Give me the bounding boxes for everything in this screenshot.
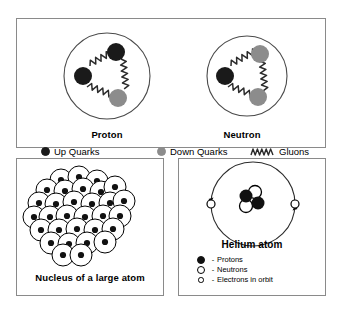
nucleon-core-dot xyxy=(38,227,44,233)
helium-electron xyxy=(207,200,215,208)
nucleon-core-dot xyxy=(117,213,123,219)
nucleon-core-dot xyxy=(64,213,70,219)
proton-marker-icon xyxy=(193,256,209,264)
nucleon-core-dot xyxy=(60,252,66,258)
nucleon-core-dot xyxy=(36,200,42,206)
helium-electron xyxy=(291,200,299,208)
panel-helium-atom: Helium atom - Protons - Neutrons xyxy=(178,158,326,296)
neutron-marker-icon xyxy=(193,266,209,274)
neutron-down-quark xyxy=(249,88,267,106)
helium-legend: - Protons - Neutrons - Electrons in orbi… xyxy=(193,255,323,285)
helium-legend-protons: - Protons xyxy=(193,255,323,265)
nucleon-core-dot xyxy=(78,252,84,258)
nucleon-core-dot xyxy=(89,201,95,207)
nucleon-core-dot xyxy=(74,226,80,232)
legend-up-quarks: Up Quarks xyxy=(41,146,99,157)
helium-legend-neutrons: - Neutrons xyxy=(193,265,323,275)
nucleon-core-dot xyxy=(110,226,116,232)
nucleus-caption: Nucleus of a large atom xyxy=(17,272,163,283)
neutron-caption: Neutron xyxy=(192,129,292,140)
gluon-icon xyxy=(250,147,274,157)
nucleon-core-dot xyxy=(71,199,77,205)
legend-down-quarks-label: Down Quarks xyxy=(170,146,228,157)
panel-nucleus: Nucleus of a large atom xyxy=(16,158,164,296)
legend-dash: - xyxy=(209,275,217,285)
helium-proton xyxy=(252,197,265,210)
nucleon-core-dot xyxy=(80,186,86,192)
helium-legend-neutrons-label: Neutrons xyxy=(217,265,247,275)
diagram-stage: Proton Neutron Up Quarks Down Quarks Glu… xyxy=(0,0,340,311)
legend-gluons-label: Gluons xyxy=(279,146,309,157)
neutron-group xyxy=(207,36,287,116)
proton-up-quark xyxy=(74,67,92,85)
helium-legend-electrons-label: Electrons in orbit xyxy=(217,275,273,285)
nucleon-core-dot xyxy=(47,214,53,220)
neutron-down-quark xyxy=(251,45,269,63)
legend-down-quarks: Down Quarks xyxy=(157,146,228,157)
nucleon-core-dot xyxy=(56,227,62,233)
nucleon-core-dot xyxy=(121,198,127,204)
panel-proton-neutron: Proton Neutron Up Quarks Down Quarks Glu… xyxy=(16,18,326,148)
proton-group xyxy=(64,33,150,119)
helium-caption: Helium atom xyxy=(179,239,325,250)
nucleon-cluster xyxy=(23,166,135,266)
legend-up-quarks-label: Up Quarks xyxy=(54,146,99,157)
nucleon-core-dot xyxy=(92,227,98,233)
down-quark-swatch-icon xyxy=(157,147,166,156)
electron-marker-icon xyxy=(193,277,209,283)
helium-legend-electrons: - Electrons in orbit xyxy=(193,275,323,285)
helium-proton xyxy=(240,190,253,203)
particles-graphics xyxy=(17,19,325,147)
proton-caption: Proton xyxy=(57,129,157,140)
nucleon-core-dot xyxy=(100,213,106,219)
proton-up-quark xyxy=(107,43,125,61)
nucleon-core-dot xyxy=(107,200,113,206)
nucleon-core-dot xyxy=(48,240,54,246)
helium-legend-protons-label: Protons xyxy=(217,255,243,265)
nucleon-core-dot xyxy=(44,187,50,193)
legend-gluons: Gluons xyxy=(250,146,309,157)
legend-dash: - xyxy=(209,255,217,265)
proton-down-quark xyxy=(109,89,127,107)
nucleon-core-dot xyxy=(112,184,118,190)
neutron-up-quark xyxy=(216,67,234,85)
legend-dash: - xyxy=(209,265,217,275)
up-quark-swatch-icon xyxy=(41,147,50,156)
nucleon-core-dot xyxy=(102,239,108,245)
nucleon-core-dot xyxy=(31,214,37,220)
